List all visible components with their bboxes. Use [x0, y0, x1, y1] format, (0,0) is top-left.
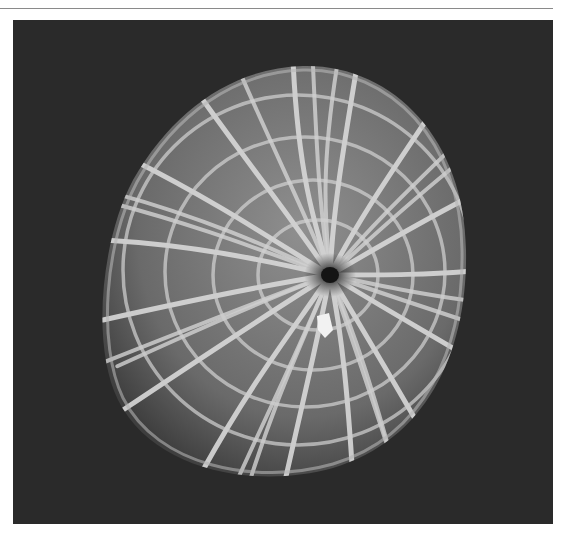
pollen-grain-image [13, 20, 553, 524]
micrograph-panel: SEM image of a pollen grain on a dark ba… [13, 20, 553, 524]
top-rule [0, 8, 553, 9]
